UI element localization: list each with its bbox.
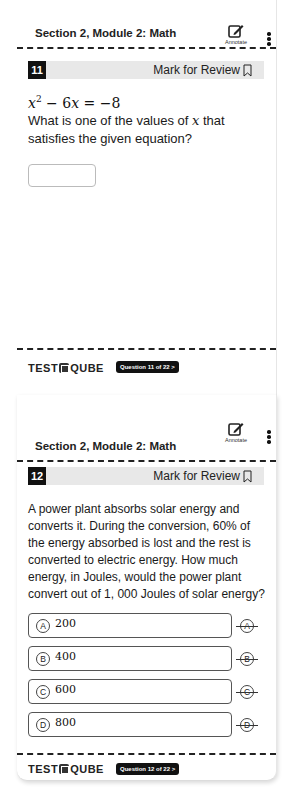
eliminate-a-button[interactable]: A — [240, 619, 254, 633]
choice-value: 200 — [55, 617, 76, 630]
choice-row-b: B 400 B — [28, 646, 266, 671]
pencil-edit-icon — [228, 24, 244, 38]
choice-a[interactable]: A 200 — [28, 613, 232, 638]
top-bar: Section 2, Module 2: Math Annotate — [17, 0, 276, 47]
mark-for-review-button[interactable]: Mark for Review — [153, 61, 252, 79]
choice-c[interactable]: C 600 — [28, 679, 232, 704]
annotate-button[interactable]: Annotate — [218, 422, 254, 443]
pencil-edit-icon — [228, 422, 244, 436]
annotate-label: Annotate — [218, 39, 254, 45]
mark-for-review-label: Mark for Review — [153, 61, 240, 79]
more-options-icon[interactable] — [264, 430, 274, 445]
section-title: Section 2, Module 2: Math — [35, 27, 176, 39]
cube-icon — [59, 764, 69, 774]
question-number: 12 — [28, 467, 46, 485]
choice-row-c: C 600 C — [28, 679, 266, 704]
divider — [17, 348, 276, 350]
question-number: 11 — [28, 61, 46, 79]
testqube-logo: TESTQUBE — [28, 763, 104, 775]
question-header-bar: 11 Mark for Review — [28, 61, 264, 79]
answer-input[interactable] — [28, 164, 96, 187]
choice-row-a: A 200 A — [28, 613, 266, 638]
mark-for-review-button[interactable]: Mark for Review — [153, 467, 252, 485]
divider — [17, 460, 276, 462]
footer: TESTQUBE Question 12 of 22 > — [17, 753, 276, 789]
top-bar: Section 2, Module 2: Math Annotate — [17, 395, 276, 460]
question-prompt: What is one of the values of x that sati… — [28, 112, 266, 148]
eliminate-c-button[interactable]: C — [240, 685, 254, 699]
eliminate-b-button[interactable]: B — [240, 652, 254, 666]
eliminate-d-button[interactable]: D — [240, 718, 254, 732]
question-card-12: Section 2, Module 2: Math Annotate 12 Ma… — [17, 395, 277, 781]
annotate-button[interactable]: Annotate — [218, 24, 254, 45]
question-nav-button[interactable]: Question 11 of 22 > — [116, 361, 179, 373]
annotate-label: Annotate — [218, 437, 254, 443]
choice-b[interactable]: B 400 — [28, 646, 232, 671]
bookmark-icon — [243, 64, 252, 77]
choice-letter: B — [36, 652, 50, 666]
question-nav-button[interactable]: Question 12 of 22 > — [116, 763, 179, 775]
choice-value: 600 — [55, 683, 76, 696]
mark-for-review-label: Mark for Review — [153, 467, 240, 485]
choice-d[interactable]: D 800 — [28, 712, 232, 737]
question-body: A power plant absorbs solar energy and c… — [17, 485, 276, 737]
choice-letter: D — [36, 718, 50, 732]
choice-value: 400 — [55, 650, 76, 663]
more-options-icon[interactable] — [264, 32, 274, 47]
question-card-11: Section 2, Module 2: Math Annotate 11 Ma… — [17, 0, 277, 395]
choice-letter: C — [36, 685, 50, 699]
equation: x2 − 6x = −8 — [28, 91, 266, 112]
section-title: Section 2, Module 2: Math — [35, 440, 176, 452]
divider — [17, 753, 276, 755]
choice-letter: A — [36, 619, 50, 633]
choice-value: 800 — [55, 716, 76, 729]
bookmark-icon — [243, 470, 252, 483]
cube-icon — [59, 363, 69, 373]
answer-choices: A 200 A B 400 B C 600 C — [28, 613, 266, 737]
question-header-bar: 12 Mark for Review — [28, 467, 264, 485]
footer: TESTQUBE Question 11 of 22 > — [17, 348, 276, 388]
divider — [17, 47, 276, 49]
choice-row-d: D 800 D — [28, 712, 266, 737]
question-prompt: A power plant absorbs solar energy and c… — [28, 501, 266, 603]
testqube-logo: TESTQUBE — [28, 362, 104, 374]
question-body: x2 − 6x = −8 What is one of the values o… — [17, 79, 276, 187]
